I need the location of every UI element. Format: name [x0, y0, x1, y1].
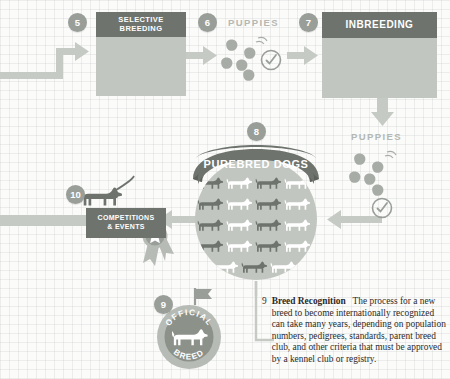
- step-badge-5: 5: [68, 13, 87, 32]
- arrow-puppies-to-inbreeding: [287, 46, 318, 65]
- infographic-canvas: OFFICIAL BREED 5 SELECTIVE BREEDING 6 PU…: [0, 0, 450, 379]
- label-puppies-2: PUPPIES: [351, 131, 402, 142]
- arrow-breeding-to-puppies: [186, 46, 217, 65]
- competitions-title-line2: & EVENTS: [107, 223, 144, 230]
- step-badge-10: 10: [66, 185, 85, 204]
- competitions-title-line1: COMPETITIONS: [98, 214, 155, 221]
- panel-selective-breeding: SELECTIVE BREEDING: [96, 12, 186, 96]
- arrow-into-selective-breeding: [0, 42, 89, 79]
- panel-header-inbreeding: INBREEDING: [322, 12, 437, 38]
- label-puppies-1: PUPPIES: [228, 17, 279, 28]
- check-circle-2: [373, 199, 392, 218]
- breed-recognition-block: 9 Breed Recognition The process for a ne…: [262, 296, 448, 366]
- breed-recognition-number: 9: [262, 296, 267, 306]
- purebred-banner-text: PUREBRED DOGS: [193, 150, 319, 178]
- step-badge-7: 7: [299, 13, 318, 32]
- panel-inbreeding: INBREEDING: [322, 12, 437, 98]
- step-badge-6: 6: [198, 13, 217, 32]
- panel-competitions-events: COMPETITIONS & EVENTS: [86, 208, 166, 238]
- puppy-cluster-2: [349, 151, 396, 195]
- breed-recognition-heading: Breed Recognition: [272, 296, 346, 306]
- dog-on-leash-art: [82, 176, 134, 206]
- check-circle-1: [262, 51, 281, 70]
- puppy-cluster-1: [221, 37, 267, 80]
- arrow-competitions-outflow: [0, 215, 86, 226]
- purebred-banner-label: PUREBRED DOGS: [193, 150, 319, 178]
- arrow-inbreeding-down: [371, 97, 394, 126]
- breed-recognition-text: Breed Recognition The process for a new …: [272, 296, 448, 366]
- breed-recognition-body: The process for a new breed to become in…: [272, 296, 446, 364]
- panel-header-selective-breeding: SELECTIVE BREEDING: [96, 12, 186, 37]
- step-badge-9: 9: [154, 295, 173, 314]
- selective-breeding-title-line2: BREEDING: [120, 24, 163, 33]
- step-badge-8: 8: [247, 122, 266, 141]
